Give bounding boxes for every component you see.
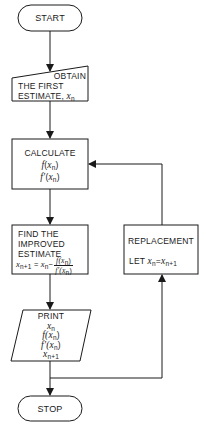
stop-label: STOP [18,404,82,414]
fraction-denominator: f′(xn) [54,266,73,275]
calculate-label: CALCULATE f(xn) f′(xn) [12,147,88,183]
formula-equals: = [32,260,41,269]
obtain-line-1: OBTAIN [18,71,86,81]
obtain-line-2: THE FIRST [18,81,86,91]
replacement-title: REPLACEMENT [124,236,198,246]
print-label: PRINT xn f(xn) f′(xn) xn+1 [17,312,85,360]
let-rhs-sub: n+1 [165,260,177,267]
print-item-4: xn+1 [17,350,85,360]
flowchart-canvas [0,0,206,429]
formula-lhs-sub: n+1 [20,263,32,270]
replacement-let: LET xn=xn+1 [129,256,197,266]
find-formula: xn+1 = xn− f(xn) f′(xn) [16,256,88,275]
let-keyword: LET [129,256,145,266]
formula-minus: − [49,260,54,269]
obtain-line-3: ESTIMATE, xn [18,91,86,101]
replacement-process-shape [124,225,198,274]
formula-fraction: f(xn) f′(xn) [54,256,73,275]
start-text: START [35,13,65,23]
obtain-line-3-text: ESTIMATE, [18,91,64,101]
obtain-var-sub: n [71,95,75,102]
obtain-label: OBTAIN THE FIRST ESTIMATE, xn [18,71,86,101]
paren: ) [56,160,59,170]
start-label: START [18,13,82,23]
print-item-3: f′(xn) [17,341,85,351]
paren: ) [57,172,60,182]
calculate-fprime: f′(xn) [12,171,88,183]
find-label: FIND THE IMPROVED ESTIMATE [18,229,88,259]
find-line-2: IMPROVED [18,239,88,249]
calculate-title: CALCULATE [12,147,88,159]
calculate-f: f(xn) [12,159,88,171]
replacement-label: REPLACEMENT [124,236,198,246]
find-line-1: FIND THE [18,229,88,239]
fraction-numerator: f(xn) [54,256,73,266]
stop-text: STOP [37,404,62,414]
edge-replacement-calculate [89,164,162,225]
